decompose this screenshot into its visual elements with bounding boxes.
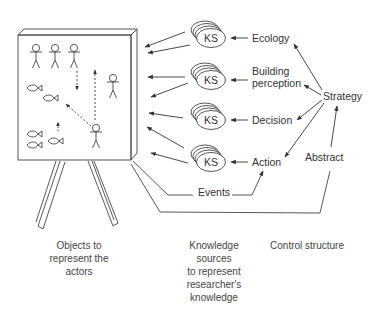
svg-text:Knowledge: Knowledge [189, 240, 239, 251]
svg-text:KS: KS [204, 32, 218, 44]
svg-text:Control structure: Control structure [270, 240, 344, 251]
svg-text:KS: KS [204, 156, 218, 168]
ks-stack-ecology: KS [191, 21, 226, 48]
abstract-label: Abstract [305, 151, 344, 163]
svg-text:knowledge: knowledge [190, 292, 238, 303]
ks-stack-decision: KS [191, 103, 226, 130]
building-label-line1: Building [252, 65, 290, 77]
svg-text:to represent: to represent [187, 266, 241, 277]
strategy-label: Strategy [323, 90, 363, 102]
svg-text:sources: sources [196, 253, 231, 264]
ks-to-board-arrows [145, 32, 190, 163]
svg-text:Objects to: Objects to [56, 240, 101, 251]
action-label: Action [252, 156, 281, 168]
caption-control: Control structure [270, 240, 344, 251]
svg-text:represent the: represent the [50, 253, 109, 264]
svg-text:KS: KS [204, 74, 218, 86]
caption-objects: Objects to represent the actors [50, 240, 109, 277]
ks-architecture-diagram: KS KS KS KS Ecology Building perception … [0, 0, 370, 318]
label-to-ks-arrows [231, 38, 248, 162]
feedback-lines [131, 161, 330, 213]
caption-knowledge: Knowledge sources to represent researche… [187, 240, 242, 303]
building-label-line2: perception [252, 77, 301, 89]
decision-label: Decision [252, 114, 292, 126]
actor-figures [27, 44, 119, 148]
ecology-label: Ecology [252, 32, 290, 44]
svg-text:researcher's: researcher's [187, 279, 242, 290]
svg-text:actors: actors [65, 266, 92, 277]
svg-text:KS: KS [204, 114, 218, 126]
ks-stack-action: KS [191, 145, 226, 172]
events-label: Events [198, 186, 230, 198]
ks-stack-building: KS [191, 63, 226, 90]
